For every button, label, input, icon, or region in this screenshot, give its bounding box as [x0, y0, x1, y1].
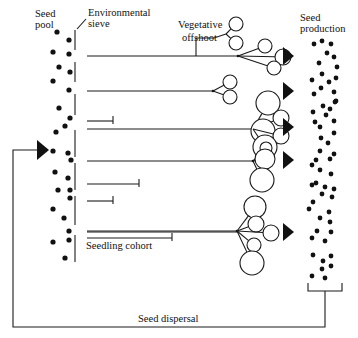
seed-dot [66, 51, 71, 56]
seed-dot [53, 129, 58, 134]
dispersal-arrow-icon [37, 140, 49, 160]
flower-circle [223, 90, 237, 104]
produced-seed-dot [332, 55, 337, 60]
seed-dot [62, 255, 67, 260]
produced-seed-dot [321, 259, 326, 264]
plant-shoot [87, 91, 289, 159]
produced-seed-dot [310, 274, 315, 279]
seedling-lines [87, 116, 237, 241]
svg-text:Environmental: Environmental [88, 7, 150, 18]
seed-dot [65, 150, 70, 155]
flower-circle [263, 225, 279, 241]
produced-seed-dot [321, 104, 326, 109]
vegetative-offshoot-label: Vegetative offshoot [178, 19, 223, 43]
produced-seed-dot [311, 253, 316, 258]
produced-seed-dot [312, 42, 317, 47]
produced-seed-dot [315, 229, 320, 234]
produced-seed-dot [311, 110, 316, 115]
flower-circle [240, 251, 264, 275]
produced-seed-dot [327, 80, 332, 85]
arrow-right-icon [283, 223, 294, 241]
flower-circle [255, 149, 275, 169]
seed-dot [61, 215, 66, 220]
flower-circle [250, 168, 274, 192]
seed-dot [66, 228, 71, 233]
flower-circle [248, 216, 264, 232]
produced-seed-dot [310, 78, 315, 83]
seed-dot [67, 115, 72, 120]
plant-shoot [87, 75, 237, 104]
seed-dot [55, 187, 60, 192]
produced-seed-dot [318, 216, 323, 221]
produced-seed-dot [323, 239, 328, 244]
plant-shoots [87, 17, 291, 275]
produced-seed-dot [323, 185, 328, 190]
produced-seed-dot [319, 136, 324, 141]
svg-text:production: production [300, 23, 346, 34]
produced-seed-dot [334, 76, 339, 81]
plant-shoot [87, 196, 279, 275]
flower-circle [244, 196, 266, 218]
produced-seed-dot [320, 192, 325, 197]
seed-dispersal-label: Seed dispersal [138, 313, 198, 324]
seed-dot [50, 49, 55, 54]
offshoot-circle [229, 17, 243, 31]
produced-seed-dot [329, 172, 334, 177]
sieve-pointer-line [77, 19, 86, 29]
produced-seed-dot [312, 92, 317, 97]
svg-text:sieve: sieve [88, 18, 110, 29]
flower-circle [223, 75, 237, 89]
produced-seed-dot [310, 236, 315, 241]
produced-seed-dot [320, 72, 325, 77]
seed-pool [50, 29, 73, 260]
seed-production-label: Seed production [300, 12, 346, 34]
produced-seed-dot [310, 163, 315, 168]
flower-circle [267, 61, 281, 75]
produced-seed-dot [313, 120, 318, 125]
produced-seed-dot [314, 158, 319, 163]
produced-seed-dot [332, 152, 337, 157]
seed-dot [50, 148, 55, 153]
arrow-right-icon [283, 82, 294, 100]
seed-dot [50, 206, 55, 211]
seed-production-pool [307, 39, 340, 281]
flower-circle [247, 238, 261, 252]
produced-seed-dot [318, 168, 323, 173]
produced-seed-dot [332, 90, 337, 95]
produced-seed-dot [332, 119, 337, 124]
seed-dot [50, 239, 55, 244]
produced-seed-dot [320, 39, 325, 44]
produced-seed-dot [320, 267, 325, 272]
produced-seed-dot [329, 230, 334, 235]
offshoot-circle [229, 36, 243, 50]
produced-seed-dot [326, 141, 331, 146]
produced-seed-dot [323, 276, 328, 281]
produced-seed-dot [325, 51, 330, 56]
produced-seed-dot [332, 131, 337, 136]
produced-seed-dot [311, 200, 316, 205]
seed-pool-label: Seed pool [35, 8, 56, 30]
svg-text:Vegetative: Vegetative [178, 19, 223, 30]
seed-dot [65, 175, 70, 180]
seed-dot [56, 64, 61, 69]
seed-dot [68, 157, 73, 162]
svg-text:Seed: Seed [35, 8, 56, 19]
produced-seed-dot [328, 220, 333, 225]
produced-seed-dot [335, 65, 340, 70]
produced-seed-dot [329, 42, 334, 47]
seed-dot [52, 169, 57, 174]
seed-dynamics-diagram: Seed pool Environmental sieve Vegetative… [0, 0, 358, 338]
seed-dot [56, 105, 61, 110]
svg-text:pool: pool [35, 19, 54, 30]
produced-seed-dot [329, 254, 334, 259]
seed-dot [67, 195, 72, 200]
seed-dot [66, 87, 71, 92]
seed-dot [62, 123, 67, 128]
seed-dot [67, 187, 72, 192]
produced-seed-dot [310, 183, 315, 188]
flower-circle [258, 39, 272, 53]
svg-text:Seed: Seed [300, 12, 321, 23]
production-bracket [308, 283, 342, 291]
arrow-right-icon [283, 151, 294, 169]
produced-seed-dot [330, 195, 335, 200]
